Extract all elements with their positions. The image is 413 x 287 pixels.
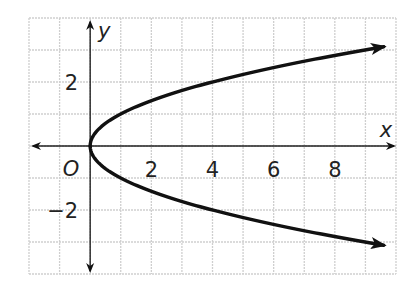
x-tick-label: 2 xyxy=(145,158,158,182)
x-axis-label: x xyxy=(379,118,393,142)
y-axis-label: y xyxy=(97,19,111,43)
x-tick-label: 6 xyxy=(267,158,280,182)
axes xyxy=(33,22,394,271)
graph-canvas: 24682−2Oxy xyxy=(0,0,413,287)
curve-upper-branch xyxy=(90,47,384,146)
y-tick-label: 2 xyxy=(65,71,78,95)
y-tick-label: −2 xyxy=(47,199,78,223)
origin-label: O xyxy=(63,157,80,181)
x-tick-label: 8 xyxy=(328,158,341,182)
x-tick-label: 4 xyxy=(206,158,219,182)
